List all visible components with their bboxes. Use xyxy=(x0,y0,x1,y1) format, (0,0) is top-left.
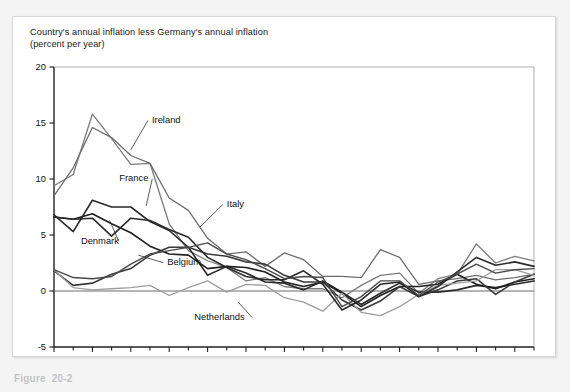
series-label-belgium: Belgium xyxy=(167,256,201,267)
x-axis-tick-label: 1980 xyxy=(82,355,103,359)
y-axis-tick-label: 0 xyxy=(41,285,46,296)
series-label-france: France xyxy=(119,172,148,183)
x-axis-tick-label: 2000 xyxy=(466,355,487,359)
y-axis-tick-label: 5 xyxy=(41,229,46,240)
x-axis-tick-label: 1986 xyxy=(197,355,218,359)
x-axis-tick-label: 1994 xyxy=(351,355,372,359)
series-line-italy xyxy=(54,127,534,284)
series-line-denmark xyxy=(54,214,534,307)
series-label-italy: Italy xyxy=(227,198,245,209)
y-axis-tick-label: 15 xyxy=(36,117,46,128)
x-axis-tick-label: 1998 xyxy=(428,355,449,359)
leader-line-ireland xyxy=(131,121,148,150)
y-axis-tick-label: 10 xyxy=(36,173,46,184)
x-axis-tick-label: 1984 xyxy=(159,355,180,359)
y-axis-tick-label: -5 xyxy=(38,341,46,352)
series-label-ireland: Ireland xyxy=(152,114,181,125)
x-axis-tick-label: 1982 xyxy=(120,355,141,359)
line-chart: -505101520197819801982198419861988199019… xyxy=(13,17,557,358)
page-background: Country's annual inflation less Germany'… xyxy=(0,0,570,392)
figure-caption: Figure 20-2 xyxy=(14,373,73,384)
series-line-france xyxy=(54,200,534,304)
x-axis-tick-label: 1988 xyxy=(236,355,257,359)
x-axis-tick-label: 1996 xyxy=(389,355,410,359)
leader-line-belgium xyxy=(138,255,163,263)
figure-panel: Country's annual inflation less Germany'… xyxy=(12,16,556,357)
y-axis-tick-label: 20 xyxy=(36,61,46,72)
x-axis-tick-label: 2002 xyxy=(504,355,525,359)
x-axis-tick-label: 1978 xyxy=(44,355,65,359)
x-axis-tick-label: 1992 xyxy=(312,355,333,359)
leader-line-italy xyxy=(200,205,223,228)
series-label-netherlands: Netherlands xyxy=(194,311,245,322)
series-label-denmark: Denmark xyxy=(81,235,119,246)
x-axis-tick-label: 1990 xyxy=(274,355,295,359)
